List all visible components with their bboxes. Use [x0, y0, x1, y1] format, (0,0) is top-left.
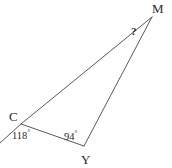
- vertex-label-y: Y: [81, 153, 90, 166]
- degree-symbol-y: °: [75, 129, 78, 137]
- vertex-label-c: C: [9, 110, 18, 123]
- angle-value-y: 94: [64, 131, 75, 142]
- diagram-canvas: M C Y 118° 94° ?: [0, 0, 172, 168]
- triangle-figure: [0, 0, 172, 168]
- angle-value-c: 118: [12, 130, 27, 141]
- vertex-label-m: M: [152, 2, 164, 15]
- angle-label-at-c: 118°: [12, 129, 30, 141]
- degree-symbol-c: °: [27, 128, 30, 136]
- angle-label-at-m-unknown: ?: [131, 26, 137, 37]
- segment-my-line: [84, 17, 152, 146]
- angle-label-at-y: 94°: [64, 130, 77, 142]
